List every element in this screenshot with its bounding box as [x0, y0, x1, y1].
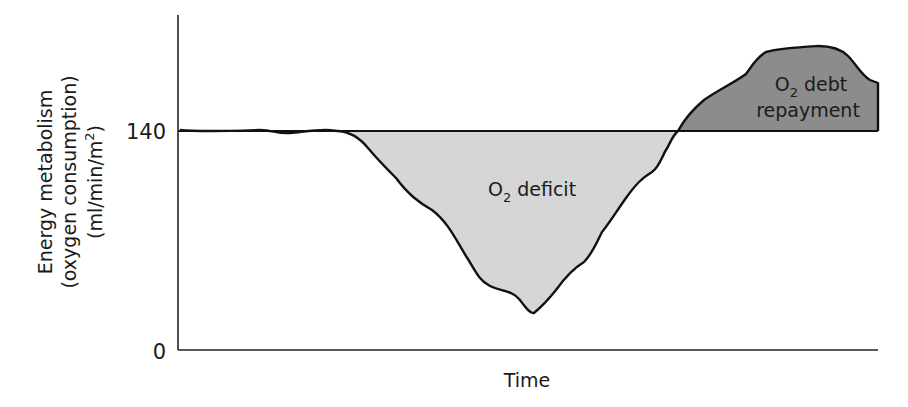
y-tick-0: 0: [153, 340, 166, 364]
svg-text:(oxygen consumption): (oxygen consumption): [58, 75, 80, 288]
o2-debt-label-line2: repayment: [756, 99, 860, 121]
svg-text:(ml/min/m2): (ml/min/m2): [82, 125, 106, 239]
y-tick-140: 140: [126, 120, 166, 144]
y-axis-title: Energy metabolism (oxygen consumption) (…: [34, 75, 106, 288]
oxygen-debt-chart: 140 0 Time Energy metabolism (oxygen con…: [0, 0, 908, 407]
x-axis-title: Time: [503, 369, 551, 391]
svg-text:Energy metabolism: Energy metabolism: [34, 90, 56, 275]
o2-deficit-area: [338, 131, 676, 313]
